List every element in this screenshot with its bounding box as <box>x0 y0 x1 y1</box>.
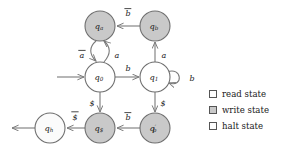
state-node-qb[interactable]: qb <box>140 11 170 41</box>
edge-label-qa-q0: a <box>78 50 85 60</box>
legend: read state write state halt state <box>209 86 297 134</box>
legend-item-read: read state <box>209 86 297 102</box>
edge-label-q0-q1: b <box>125 64 130 73</box>
edge-qa-to-q0 <box>91 41 96 61</box>
edge-label-q0-qa: a <box>115 51 120 60</box>
state-node-qbprime[interactable]: q′b <box>140 113 170 143</box>
edge-label-qb-qa: b <box>124 9 131 18</box>
state-sub-q0: 0 <box>100 76 104 82</box>
edge-label-text: $ <box>89 99 94 108</box>
edge-label-text: b <box>189 74 194 83</box>
state-sub-qdollar: $ <box>100 127 104 133</box>
automaton-figure: qa qb q0 q1 q$ <box>0 0 301 153</box>
edge-label-qdollar-qh: $ <box>71 112 78 122</box>
edge-label-text: a <box>80 51 85 60</box>
state-sub-qb: b <box>155 25 159 31</box>
edge-label-text: b <box>125 64 130 73</box>
edge-q0-to-qa <box>104 41 109 62</box>
legend-label-halt: halt state <box>222 122 263 131</box>
legend-item-halt: halt state <box>209 118 297 134</box>
edge-label-text: a <box>115 51 120 60</box>
edge-label-text: $ <box>72 113 77 122</box>
edge-label-text: b <box>125 113 130 122</box>
state-node-q1[interactable]: q1 <box>140 62 170 92</box>
state-sub-qh: h <box>50 127 54 133</box>
state-node-qa[interactable]: qa <box>85 11 115 41</box>
edge-label-q1-self: b <box>189 74 194 83</box>
state-node-qh[interactable]: qh <box>35 113 65 143</box>
state-sub-qa: a <box>100 25 103 31</box>
edge-label-q1-qbprime: $ <box>160 99 165 108</box>
state-sub-q1: 1 <box>155 76 159 82</box>
state-node-qdollar[interactable]: q$ <box>85 113 115 143</box>
legend-label-read: read state <box>222 90 266 99</box>
legend-item-write: write state <box>209 102 297 118</box>
legend-swatch-read-icon <box>209 90 217 98</box>
legend-swatch-write-icon <box>209 106 217 114</box>
edge-label-text: a <box>162 51 167 60</box>
edge-label-qbprime-qdollar: b <box>124 113 131 122</box>
legend-label-write: write state <box>222 106 269 115</box>
edge-label-text: $ <box>160 99 165 108</box>
legend-swatch-halt-icon <box>209 122 217 130</box>
edge-label-q1-qb: a <box>162 51 167 60</box>
edge-label-text: b <box>125 9 130 18</box>
state-sub-qbprime: b <box>153 127 157 133</box>
state-node-q0[interactable]: q0 <box>85 62 115 92</box>
edge-label-q0-qdollar: $ <box>89 99 94 108</box>
svg-text:q′b: q′b <box>149 123 157 134</box>
